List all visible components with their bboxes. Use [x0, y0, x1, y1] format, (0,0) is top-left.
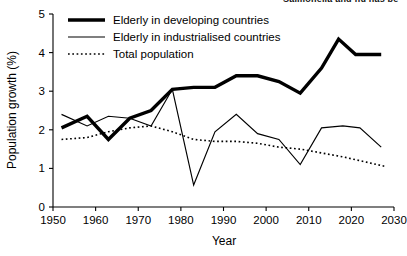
chart-series-layer: [62, 39, 386, 185]
y-axis-title: Population growth (%): [5, 51, 19, 169]
y-tick-label: 0: [39, 201, 45, 213]
x-tick-label: 2000: [253, 214, 279, 226]
x-tick-label: 1990: [211, 214, 237, 226]
chart-figure: Salmonella and flu has be 012345 1950196…: [0, 0, 407, 256]
x-tick-label: 1950: [40, 214, 66, 226]
y-axis-ticks: [49, 14, 53, 207]
x-tick-label: 1970: [125, 214, 151, 226]
x-axis-tick-labels: 195019601970198019902000201020202030: [40, 214, 407, 226]
x-axis-ticks: [53, 207, 394, 211]
y-tick-label: 5: [39, 8, 45, 20]
series-line-elderly-developing: [62, 39, 382, 139]
chart-legend: Elderly in developing countries Elderly …: [68, 14, 281, 60]
y-axis-tick-labels: 012345: [39, 8, 46, 213]
y-tick-label: 1: [39, 162, 45, 174]
series-line-total-population: [62, 126, 386, 167]
legend-label-industrialised: Elderly in industrialised countries: [113, 31, 281, 43]
x-axis-title: Year: [212, 234, 236, 248]
y-tick-label: 2: [39, 124, 45, 136]
legend-label-developing: Elderly in developing countries: [113, 14, 269, 26]
x-tick-label: 1960: [83, 214, 109, 226]
x-tick-label: 2030: [381, 214, 407, 226]
x-tick-label: 2020: [339, 214, 365, 226]
x-tick-label: 2010: [296, 214, 322, 226]
x-tick-label: 1980: [168, 214, 194, 226]
legend-label-total: Total population: [113, 48, 194, 60]
y-tick-label: 4: [39, 47, 46, 59]
population-growth-line-chart: 012345 195019601970198019902000201020202…: [0, 0, 407, 256]
y-tick-label: 3: [39, 85, 45, 97]
